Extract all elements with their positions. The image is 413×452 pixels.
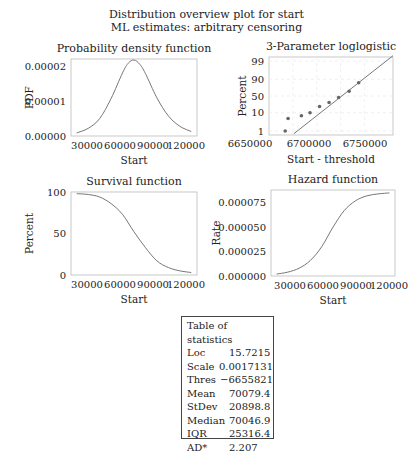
x-tick-label: 30000 (71, 140, 103, 151)
x-tick-label: 90000 (340, 280, 372, 291)
x-tick-label: 6750000 (343, 138, 388, 149)
x-tick-label: 60000 (104, 279, 136, 290)
y-tick-label: 1 (258, 126, 264, 137)
panel-title: Probability density function (57, 42, 212, 55)
stat-label: IQR (187, 427, 229, 441)
plot-frame (71, 192, 197, 275)
data-point (357, 81, 361, 85)
x-axis-label: Start (320, 294, 348, 306)
y-tick-label: 10 (251, 107, 264, 118)
stat-label: Loc (187, 346, 229, 360)
panel-title: 3-Parameter loglogistic (266, 40, 396, 53)
y-tick-label: 0.000000 (218, 271, 266, 282)
data-point (308, 111, 312, 115)
stat-row: Median70046.9 (187, 414, 273, 428)
panel-title: Survival function (86, 175, 181, 188)
y-tick-label: 0.00000 (25, 131, 66, 142)
stat-label: Scale (187, 360, 219, 374)
y-tick-label: 50 (251, 91, 264, 102)
stat-row: Scale0.0017131 (187, 360, 273, 374)
plot-frame (71, 59, 197, 136)
y-tick-label: 0 (60, 270, 66, 281)
stat-row: StDev20898.8 (187, 400, 273, 414)
data-point (347, 89, 351, 93)
x-tick-label: 6650000 (228, 138, 273, 149)
fit-line (294, 56, 393, 134)
data-point (300, 114, 304, 118)
stat-value: 70079.4 (229, 387, 270, 401)
plot-frame (271, 190, 395, 276)
data-point (283, 129, 287, 133)
y-tick-label: 99 (251, 56, 264, 67)
stat-label: Median (187, 414, 229, 428)
stat-row: Loc15.7215 (187, 346, 273, 360)
y-tick-label: 0.000050 (218, 222, 266, 233)
x-tick-label: 30000 (71, 279, 103, 290)
series-line (277, 193, 390, 274)
x-tick-label: 30000 (274, 280, 306, 291)
y-tick-label: 0.00001 (25, 96, 66, 107)
y-tick-label: 50 (53, 228, 66, 239)
y-tick-label: 90 (251, 74, 264, 85)
stat-row: Thres−6655821 (187, 373, 273, 387)
stat-value: 2.207 (229, 441, 258, 452)
x-axis-label: Start (121, 154, 149, 166)
y-tick-label: 0.00002 (25, 61, 66, 72)
x-tick-label: 90000 (137, 140, 169, 151)
stat-value: 15.7215 (229, 346, 270, 360)
stat-value: 70046.9 (229, 414, 270, 428)
data-point (318, 105, 322, 109)
stat-value: 0.0017131 (219, 360, 273, 374)
data-point (337, 96, 341, 100)
stat-label: Mean (187, 387, 229, 401)
y-tick-label: 0.000025 (218, 246, 266, 257)
x-axis-label: Start (121, 293, 149, 305)
stat-value: −6655821 (220, 373, 273, 387)
x-tick-label: 60000 (307, 280, 339, 291)
y-tick-label: 0.000075 (218, 197, 266, 208)
stat-value: 20898.8 (229, 400, 270, 414)
x-tick-label: 90000 (137, 279, 169, 290)
stat-row: AD*2.207 (187, 441, 273, 452)
x-tick-label: 120000 (167, 140, 205, 151)
x-tick-label: 120000 (167, 279, 205, 290)
stat-value: 25316.4 (229, 427, 270, 441)
data-point (327, 101, 331, 105)
stat-label: Thres (187, 373, 220, 387)
y-axis-label: Percent (236, 75, 248, 117)
statistics-table: Table of statistics Loc15.7215 Scale0.00… (181, 316, 274, 439)
panel-title: Hazard function (288, 173, 378, 186)
x-tick-label: 120000 (370, 280, 408, 291)
stat-row: IQR25316.4 (187, 427, 273, 441)
stat-label: AD* (187, 441, 229, 452)
series-line (77, 194, 192, 273)
series-line (77, 60, 192, 133)
statistics-table-title: Table of statistics (187, 319, 273, 346)
y-axis-label: Percent (23, 212, 35, 254)
x-tick-label: 6700000 (287, 138, 332, 149)
data-point (286, 117, 290, 121)
stat-row: Mean70079.4 (187, 387, 273, 401)
x-axis-label: Start - threshold (287, 153, 375, 165)
x-tick-label: 60000 (104, 140, 136, 151)
y-tick-label: 100 (47, 187, 66, 198)
stat-label: StDev (187, 400, 229, 414)
